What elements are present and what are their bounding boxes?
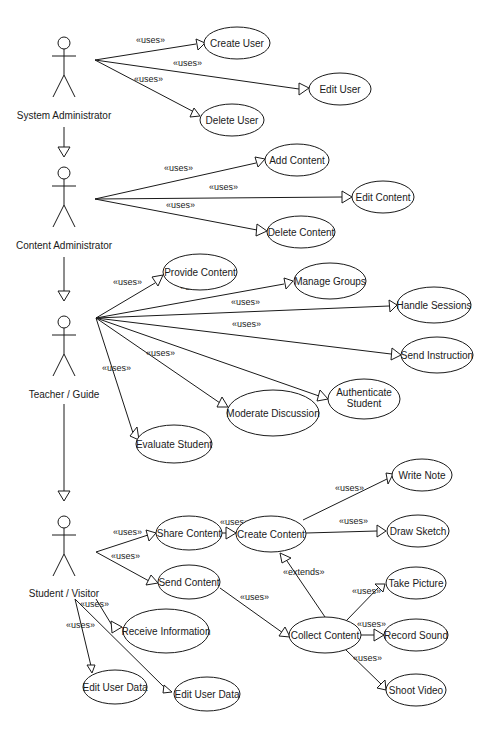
use-case-record-sound[interactable]: Record Sound (384, 619, 448, 651)
extends-label: «extends» (283, 567, 325, 577)
svg-text:Edit User: Edit User (319, 84, 361, 95)
actor-system-administrator: System Administrator (17, 37, 112, 121)
svg-text:Student: Student (347, 398, 382, 409)
actor-label: Student / Visitor (29, 588, 100, 599)
use-case-create-content[interactable]: Create Content (236, 516, 306, 552)
svg-text:Create Content: Create Content (237, 529, 305, 540)
uses-label: «uses» (111, 551, 140, 561)
use-case-edit-content[interactable]: Edit Content (352, 181, 414, 213)
use-case-send-content[interactable]: Send Content (158, 565, 220, 599)
svg-text:Add Content: Add Content (269, 155, 325, 166)
use-case-receive-information[interactable]: Receive Information (122, 609, 211, 653)
uses-label: «uses» (134, 74, 163, 84)
use-case-evaluate-student[interactable]: Evaluate Student (136, 425, 212, 463)
use-case-take-picture[interactable]: Take Picture (386, 567, 446, 599)
use-case-delete-content[interactable]: Delete Content (267, 216, 335, 248)
svg-text:Delete Content: Delete Content (268, 227, 335, 238)
use-case-shoot-video[interactable]: Shoot Video (386, 674, 446, 706)
use-case-add-content[interactable]: Add Content (265, 144, 329, 176)
svg-text:Manage Groups: Manage Groups (294, 276, 366, 287)
svg-text:Edit Content: Edit Content (355, 192, 410, 203)
uses-label: «uses» (231, 297, 260, 307)
use-case-manage-groups[interactable]: Manage Groups (294, 263, 366, 299)
use-case-draw-sketch[interactable]: Draw Sketch (387, 515, 449, 547)
svg-text:Create User: Create User (210, 38, 265, 49)
uses-label: «uses» (173, 58, 202, 68)
actor-label: Teacher / Guide (29, 389, 100, 400)
svg-text:Shoot Video: Shoot Video (389, 685, 444, 696)
use-case-diagram: System Administrator Content Administrat… (0, 0, 498, 736)
uses-label: «uses» (164, 163, 193, 173)
svg-text:Draw Sketch: Draw Sketch (390, 526, 447, 537)
svg-text:Take Picture: Take Picture (388, 578, 443, 589)
actor-label: System Administrator (17, 110, 112, 121)
use-case-handle-sessions[interactable]: Handle Sessions (396, 287, 471, 323)
use-case-share-content[interactable]: Share Content (156, 516, 222, 550)
use-case-provide-content[interactable]: Provide Content (163, 254, 237, 290)
svg-text:Write Note: Write Note (398, 470, 445, 481)
use-case-edit-user-data-1[interactable]: Edit User Data (82, 670, 147, 704)
uses-label: «uses» (209, 182, 238, 192)
svg-text:Record Sound: Record Sound (384, 630, 448, 641)
use-case-send-instruction[interactable]: Send Instruction (401, 337, 473, 373)
uses-label: «uses» (339, 516, 368, 526)
svg-text:Evaluate Student: Evaluate Student (136, 439, 212, 450)
svg-text:Receive Information: Receive Information (122, 626, 211, 637)
svg-text:Send Content: Send Content (158, 577, 219, 588)
use-case-edit-user-data-2[interactable]: Edit User Data (174, 677, 240, 711)
uses-label: «uses» (353, 653, 382, 663)
svg-text:Edit User Data: Edit User Data (174, 689, 239, 700)
use-case-moderate-discussion[interactable]: Moderate Discussion (226, 390, 319, 436)
actor-student-visitor: Student / Visitor (29, 516, 100, 599)
svg-text:Authenticate: Authenticate (336, 387, 392, 398)
svg-text:Edit User Data: Edit User Data (82, 682, 147, 693)
uses-label: «uses» (80, 599, 109, 609)
uses-label: «uses» (146, 348, 175, 358)
uses-label: «uses» (113, 527, 142, 537)
uses-label: «uses» (352, 586, 381, 596)
uses-label: «uses» (102, 363, 131, 373)
svg-text:Share Content: Share Content (157, 528, 222, 539)
svg-text:Handle Sessions: Handle Sessions (396, 300, 471, 311)
svg-text:Collect Content: Collect Content (291, 630, 360, 641)
use-case-authenticate-student[interactable]: Authenticate Student (328, 379, 400, 419)
use-case-collect-content[interactable]: Collect Content (289, 617, 361, 653)
uses-label: «uses» (166, 200, 195, 210)
uses-label: «uses» (113, 277, 142, 287)
actor-content-administrator: Content Administrator (16, 167, 113, 251)
actor-teacher-guide: Teacher / Guide (29, 316, 100, 400)
actor-label: Content Administrator (16, 240, 113, 251)
use-case-create-user[interactable]: Create User (204, 27, 270, 59)
svg-text:Moderate Discussion: Moderate Discussion (226, 408, 319, 419)
uses-label: «uses» (240, 592, 269, 602)
use-case-delete-user[interactable]: Delete User (200, 104, 264, 136)
use-case-edit-user[interactable]: Edit User (309, 73, 371, 105)
svg-text:Provide Content: Provide Content (164, 267, 236, 278)
svg-text:Send Instruction: Send Instruction (401, 350, 473, 361)
uses-label: «uses» (232, 319, 261, 329)
uses-label: «uses» (136, 35, 165, 45)
svg-text:Delete User: Delete User (206, 115, 259, 126)
uses-label: «uses» (66, 620, 95, 630)
uses-label: «uses» (335, 483, 364, 493)
use-case-write-note[interactable]: Write Note (392, 459, 452, 491)
uses-label: «uses» (357, 619, 386, 629)
